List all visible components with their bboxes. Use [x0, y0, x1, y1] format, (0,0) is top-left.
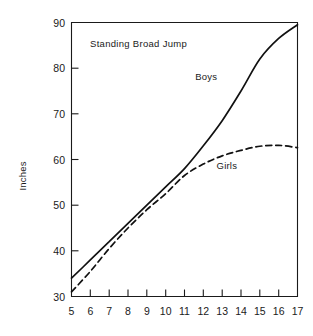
series-label-girls: Girls: [217, 160, 238, 171]
x-tick-label: 12: [197, 305, 209, 317]
x-tick-label: 14: [235, 305, 247, 317]
y-tick-label: 30: [53, 291, 65, 303]
y-axis-tick-labels: 90 80 70 60 50 40 30: [53, 17, 65, 303]
x-tick-label: 6: [87, 305, 93, 317]
y-axis-title: Inches: [17, 161, 28, 190]
y-axis-ticks: [72, 68, 79, 251]
x-axis-tick-labels: 5 6 7 8 9 10 11 12 13 14 15 16 17: [69, 305, 304, 317]
series-line-boys: [72, 25, 298, 278]
x-tick-label: 5: [69, 305, 75, 317]
standing-broad-jump-line-chart: 90 80 70 60 50 40 30 5 6 7 8 9 10 11 12 …: [0, 0, 313, 336]
x-tick-label: 7: [106, 305, 112, 317]
x-tick-label: 10: [160, 305, 172, 317]
chart-title: Standing Broad Jump: [90, 38, 187, 49]
chart-container: 90 80 70 60 50 40 30 5 6 7 8 9 10 11 12 …: [0, 0, 313, 336]
series-label-boys: Boys: [195, 71, 217, 82]
y-tick-label: 50: [53, 199, 65, 211]
x-tick-label: 17: [292, 305, 304, 317]
series-line-girls: [72, 145, 298, 292]
x-tick-label: 9: [144, 305, 150, 317]
series-group: [72, 25, 298, 292]
x-tick-label: 15: [254, 305, 266, 317]
x-tick-label: 11: [179, 305, 190, 317]
x-axis-ticks: [90, 290, 278, 297]
y-tick-label: 70: [53, 108, 65, 120]
x-tick-label: 13: [216, 305, 228, 317]
y-tick-label: 80: [53, 62, 65, 74]
x-tick-label: 8: [125, 305, 131, 317]
y-tick-label: 60: [53, 154, 65, 166]
series-annotations: Boys Girls: [195, 71, 237, 171]
y-tick-label: 90: [53, 17, 65, 29]
y-tick-label: 40: [53, 245, 65, 257]
plot-frame: [72, 23, 298, 297]
x-tick-label: 16: [273, 305, 285, 317]
